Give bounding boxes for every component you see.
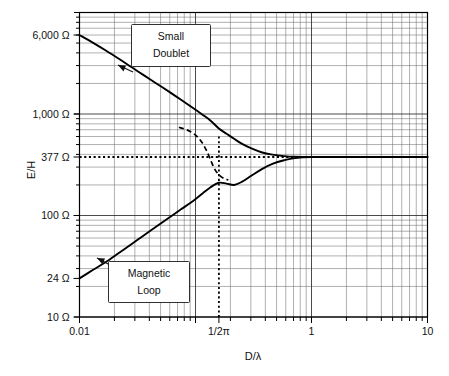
magnetic-loop-callout: Magnetic Loop: [97, 258, 190, 303]
y-tick-label: 1,000 Ω: [32, 108, 69, 120]
chart-canvas: 6,000 Ω1,000 Ω377 Ω100 Ω24 Ω10 Ω 0.011/2…: [0, 0, 449, 376]
x-tick-label: 10: [422, 325, 434, 337]
x-tick-label: 1: [309, 325, 315, 337]
x-tick-label: 1/2π: [208, 325, 230, 337]
magnetic-loop-line2: Loop: [137, 284, 161, 296]
y-tick-label: 10 Ω: [47, 311, 70, 323]
wave-impedance-chart: 6,000 Ω1,000 Ω377 Ω100 Ω24 Ω10 Ω 0.011/2…: [0, 0, 449, 376]
y-tick-label: 377 Ω: [41, 151, 69, 163]
small-doublet-line1: Small: [158, 30, 184, 42]
y-axis-title: E/H: [25, 161, 37, 179]
y-tick-label: 24 Ω: [47, 272, 70, 284]
y-tick-label: 6,000 Ω: [32, 29, 69, 41]
magnetic-loop-line1: Magnetic: [128, 267, 171, 279]
small-doublet-callout: Small Doublet: [118, 25, 211, 73]
x-tick-label: 0.01: [69, 325, 90, 337]
x-axis-title: D/λ: [245, 350, 262, 362]
y-tick-label: 100 Ω: [41, 209, 69, 221]
small-doublet-line2: Doublet: [153, 47, 189, 59]
